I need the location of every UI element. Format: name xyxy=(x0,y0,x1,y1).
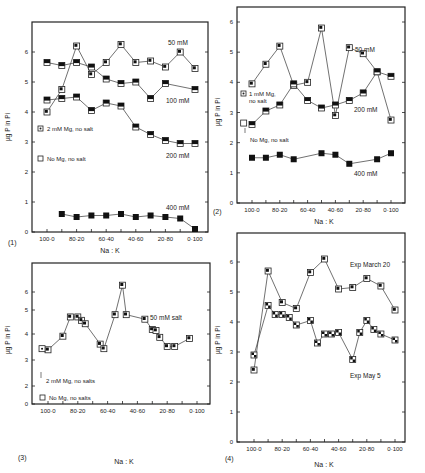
panel-3-legend-nomg: No Mg, no salts xyxy=(49,395,91,401)
x-tick-label: 80·20 xyxy=(69,236,85,242)
data-point-marker xyxy=(251,352,257,358)
y-tick-label: 4 xyxy=(230,79,234,85)
data-point-marker xyxy=(120,282,126,288)
x-tick-label: 40·60 xyxy=(328,207,344,213)
data-point-marker xyxy=(346,97,352,103)
y-tick-label: 6 xyxy=(25,49,29,55)
data-point-marker xyxy=(332,113,338,119)
data-point-marker xyxy=(148,58,154,64)
data-point-marker xyxy=(350,357,356,363)
data-point-marker xyxy=(187,335,193,341)
data-point-marker xyxy=(118,103,124,109)
data-point-marker xyxy=(44,109,50,115)
data-point-marker xyxy=(177,141,183,147)
y-tick-label: 3 xyxy=(230,349,234,355)
panel-1-legend-mg: 2 mM Mg, no salt xyxy=(47,126,93,132)
legend-open-marker xyxy=(38,156,43,161)
x-tick-label: 20·80 xyxy=(158,236,174,242)
data-point-marker xyxy=(148,132,154,138)
data-point-marker xyxy=(162,138,168,144)
data-point-marker xyxy=(322,331,328,337)
x-tick-label: 100·0 xyxy=(40,408,56,414)
data-point-marker xyxy=(322,256,328,262)
x-tick-label: 0·100 xyxy=(383,207,399,213)
data-point-marker xyxy=(103,60,109,66)
data-point-marker xyxy=(305,97,311,103)
panel-4-xlabel: Na : K xyxy=(314,461,334,468)
panel-4-note-march: Exp March 20 xyxy=(350,261,390,269)
data-point-marker xyxy=(291,156,297,162)
panel-1-note-400: 400 mM xyxy=(166,204,189,211)
y-tick-label: 5 xyxy=(230,49,234,55)
data-point-marker xyxy=(162,64,168,70)
data-point-marker xyxy=(241,120,247,126)
data-point-marker xyxy=(133,124,139,130)
data-point-marker xyxy=(272,312,278,318)
panel-4-label: (4) xyxy=(225,455,234,463)
data-point-marker xyxy=(133,60,139,66)
data-point-marker xyxy=(88,64,94,70)
data-point-marker xyxy=(374,69,380,75)
data-point-marker xyxy=(123,312,129,318)
data-point-marker xyxy=(103,76,109,82)
y-axis-label: µg P in Pi xyxy=(214,98,222,126)
x-tick-label: 100·0 xyxy=(39,236,55,242)
x-tick-label: 20·80 xyxy=(356,207,372,213)
y-tick-label: 2 xyxy=(25,383,29,389)
data-point-marker xyxy=(305,79,311,85)
x-tick-label: 60·40 xyxy=(300,207,316,213)
data-point-marker xyxy=(142,316,148,322)
y-tick-label: 6 xyxy=(230,259,234,265)
panel-2-legend-nomg: No Mg, no salt xyxy=(250,137,289,143)
x-tick-label: 0·100 xyxy=(187,236,203,242)
panel-4-y-axis: 0123456100·080·2060·4040·6020·800·100µg … xyxy=(214,259,405,452)
data-point-marker xyxy=(329,331,335,337)
data-point-marker xyxy=(263,61,269,67)
y-tick-label: 3 xyxy=(25,357,29,363)
data-point-marker xyxy=(336,330,342,336)
y-tick-label: 0 xyxy=(230,200,234,206)
data-point-marker xyxy=(314,340,320,346)
data-point-marker xyxy=(286,315,292,321)
panel-1-legend-nomg: No Mg, no salt xyxy=(47,156,86,162)
data-point-marker xyxy=(172,343,178,349)
data-point-marker xyxy=(118,81,124,87)
x-tick-label: 80·20 xyxy=(70,408,86,414)
data-point-marker xyxy=(192,87,198,93)
data-point-marker xyxy=(265,303,271,309)
panel-3-label: (3) xyxy=(18,454,27,462)
data-point-marker xyxy=(388,150,394,156)
data-point-marker xyxy=(392,337,398,343)
series-line xyxy=(62,214,195,229)
x-tick-label: 0·100 xyxy=(387,446,403,452)
data-point-marker xyxy=(346,161,352,167)
data-point-marker xyxy=(378,283,384,289)
data-point-marker xyxy=(118,42,124,48)
data-point-marker xyxy=(319,25,325,31)
data-point-marker xyxy=(249,122,255,128)
y-tick-label: 3 xyxy=(25,139,29,145)
data-point-marker xyxy=(103,100,109,106)
data-point-marker xyxy=(388,73,394,79)
data-point-marker xyxy=(148,213,154,219)
data-point-marker xyxy=(112,312,118,318)
data-point-marker xyxy=(192,66,198,72)
panel-3-note-50: 50 mM salt xyxy=(150,314,182,321)
data-point-marker xyxy=(277,152,283,158)
data-point-marker xyxy=(319,150,325,156)
data-point-marker xyxy=(192,226,198,232)
panel-3: 023456100·080·2060·4040·6020·800·100µg P… xyxy=(4,263,210,465)
x-tick-label: 20·80 xyxy=(160,408,176,414)
data-point-marker xyxy=(59,96,65,102)
data-point-marker xyxy=(101,346,107,352)
panel-3-xlabel: Na : K xyxy=(114,458,134,465)
data-point-marker xyxy=(133,79,139,85)
y-tick-label: 5 xyxy=(25,79,29,85)
data-point-marker xyxy=(39,346,45,352)
panel-4-note-may: Exp May 5 xyxy=(350,372,381,380)
data-point-marker xyxy=(60,333,66,339)
panel-2-xlabel: Na : K xyxy=(314,218,334,225)
panel-4-series xyxy=(251,256,398,373)
data-point-marker xyxy=(177,49,183,55)
y-tick-label: 3 xyxy=(230,110,234,116)
